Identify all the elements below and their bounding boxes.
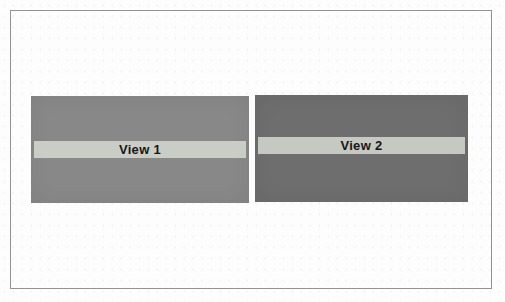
figure-page: { "figure": { "background_color": "#fdfd…	[0, 0, 505, 302]
view2-label: View 2	[340, 137, 382, 154]
view1-label: View 1	[119, 141, 161, 158]
view1-panel: View 1	[31, 96, 249, 203]
view2-panel: View 2	[255, 95, 468, 202]
view1-titlebar: View 1	[34, 141, 246, 158]
figure-frame: View 1 View 2	[10, 10, 492, 289]
view2-titlebar: View 2	[258, 137, 465, 154]
